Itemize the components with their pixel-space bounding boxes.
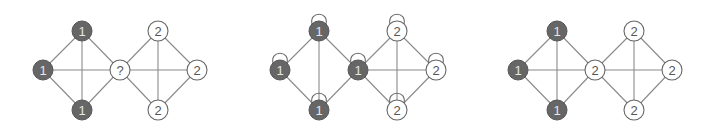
graph-node: 2 (624, 100, 644, 120)
node-label: 1 (553, 24, 560, 39)
node-label: 2 (591, 63, 598, 78)
graph-with-self-loops: 1111222 (270, 14, 446, 120)
node-label: 1 (78, 103, 85, 118)
graph-node: 2 (148, 21, 168, 41)
graph-node: 1 (508, 60, 528, 80)
graph-before: 111?222 (33, 21, 207, 120)
graph-node: 1 (72, 100, 92, 120)
node-label: 1 (39, 63, 46, 78)
graph-node: 2 (662, 60, 682, 80)
node-label: 1 (315, 103, 322, 118)
graph-node: 2 (187, 60, 207, 80)
graph-node: ? (110, 60, 130, 80)
node-label: 1 (553, 103, 560, 118)
node-label: 1 (276, 63, 283, 78)
node-label: 1 (315, 24, 322, 39)
node-label: 2 (630, 24, 637, 39)
graph-node: 1 (547, 21, 567, 41)
graph-node: 2 (387, 14, 407, 41)
node-label: 2 (154, 24, 161, 39)
graph-node: 1 (309, 14, 329, 41)
node-label: ? (116, 63, 123, 78)
node-label: 2 (193, 63, 200, 78)
graph-node: 1 (348, 53, 368, 80)
node-label: 1 (514, 63, 521, 78)
graph-node: 1 (33, 60, 53, 80)
graph-node: 1 (72, 21, 92, 41)
node-label: 2 (630, 103, 637, 118)
graph-node: 1 (270, 53, 290, 80)
graph-node: 2 (148, 100, 168, 120)
graph-node: 2 (585, 60, 605, 80)
node-label: 2 (668, 63, 675, 78)
graphs-layer: 111?22211112221112222 (33, 14, 682, 120)
node-label: 2 (393, 103, 400, 118)
node-label: 1 (78, 24, 85, 39)
graph-after: 1112222 (508, 21, 682, 120)
node-label: 1 (354, 63, 361, 78)
graph-node: 2 (624, 21, 644, 41)
node-label: 2 (154, 103, 161, 118)
graph-node: 2 (426, 53, 446, 80)
graph-node: 1 (547, 100, 567, 120)
node-label: 2 (432, 63, 439, 78)
node-label: 2 (393, 24, 400, 39)
graph-diagram-canvas: 111?22211112221112222 (0, 0, 714, 132)
